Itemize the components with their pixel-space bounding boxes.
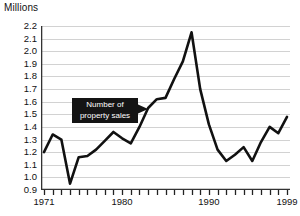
y-axis-tick-label: 1.0 <box>0 173 37 183</box>
y-axis-tick-label: 2.1 <box>0 34 37 44</box>
y-axis-tick-label: 1.3 <box>0 135 37 145</box>
callout-line-2: property sales <box>72 111 138 122</box>
y-axis-tick-label: 1.1 <box>0 160 37 170</box>
y-axis-tick-label: 1.7 <box>0 84 37 94</box>
x-axis-tick-labels: 1971198019901999 <box>0 196 300 212</box>
series-callout-box: Number of property sales <box>72 98 138 123</box>
y-axis-tick-label: 2.0 <box>0 46 37 56</box>
callout-pointer-icon <box>137 104 148 114</box>
y-axis-tick-label: 1.5 <box>0 110 37 120</box>
y-axis-tick-labels: 2.22.12.01.91.81.71.61.51.41.31.21.11.00… <box>0 26 37 190</box>
callout-line-1: Number of <box>86 100 123 109</box>
x-axis-tick-label: 1990 <box>198 196 219 207</box>
y-axis-tick-label: 1.6 <box>0 97 37 107</box>
x-axis-tick-label: 1980 <box>112 196 133 207</box>
y-axis-tick-label: 1.8 <box>0 72 37 82</box>
y-axis-tick-label: 1.2 <box>0 147 37 157</box>
x-axis-tick-label: 1999 <box>276 196 297 207</box>
x-axis-tick-label: 1971 <box>33 196 54 207</box>
y-axis-tick-label: 1.9 <box>0 59 37 69</box>
property-sales-line-chart: Millions 2.22.12.01.91.81.71.61.51.41.31… <box>0 0 300 216</box>
y-axis-tick-label: 0.9 <box>0 185 37 195</box>
y-axis-tick-label: 1.4 <box>0 122 37 132</box>
y-axis-unit-label: Millions <box>4 2 38 14</box>
y-axis-tick-label: 2.2 <box>0 21 37 31</box>
